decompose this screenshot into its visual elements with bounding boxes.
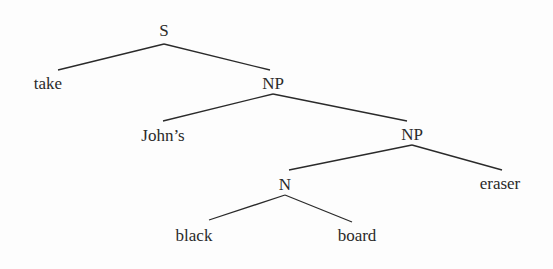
node-take: take — [34, 75, 62, 92]
node-NP2: NP — [401, 126, 423, 143]
node-board: board — [338, 227, 377, 244]
syntax-tree-diagram: StakeNPJohn’sNPNeraserblackboard — [0, 0, 553, 269]
node-N: N — [279, 176, 291, 193]
edge-N-board — [285, 195, 352, 222]
node-eraser: eraser — [480, 175, 521, 192]
edge-NP2-N — [289, 145, 412, 170]
node-black: black — [176, 227, 213, 244]
tree-edges — [0, 0, 553, 269]
edge-NP1-johns — [163, 94, 273, 121]
node-johns: John’s — [141, 127, 184, 144]
edge-NP1-NP2 — [273, 94, 407, 121]
edge-S-NP1 — [164, 44, 270, 70]
edge-NP2-eraser — [412, 145, 502, 170]
node-NP1: NP — [262, 75, 284, 92]
edge-S-take — [58, 44, 164, 70]
edge-N-black — [209, 195, 285, 220]
node-S: S — [159, 22, 168, 39]
